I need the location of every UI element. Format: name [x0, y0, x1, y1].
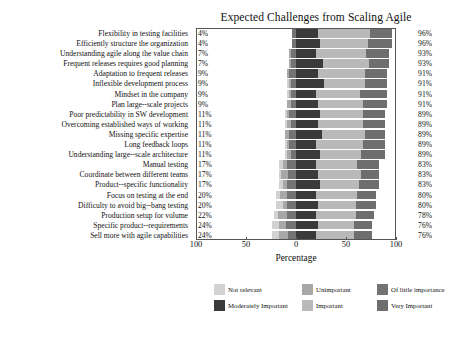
bar-segment-unimportant	[287, 150, 291, 159]
bar-segment-very-important	[363, 120, 385, 129]
bar-segment-not-relevant	[279, 180, 283, 189]
legend-label: Unimportant	[316, 284, 351, 295]
bar-segment-important	[316, 231, 354, 240]
legend-item: Not relevant	[214, 283, 262, 296]
bar-segment-moderately-important	[296, 170, 318, 179]
x-tick-label: 0	[276, 240, 316, 249]
bar-segment-very-important	[361, 150, 385, 159]
left-percentage-labels: 4%4%7%7%9%9%9%9%11%11%11%11%11%17%17%17%…	[196, 28, 238, 240]
bar-segment-unimportant	[281, 170, 288, 179]
x-axis-label: Percentage	[196, 253, 396, 263]
bar-segment-important	[318, 29, 370, 38]
bar-segment-moderately-important	[296, 140, 316, 149]
chart-legend: Not relevantUnimportantOf little importa…	[214, 283, 454, 315]
bar-segment-very-important	[356, 201, 376, 210]
bar-segment-moderately-important	[296, 90, 316, 99]
bar-segment-not-relevant	[285, 110, 287, 119]
bar-segment-very-important	[366, 49, 389, 58]
legend-swatch	[377, 284, 388, 295]
bar-segment-of-little-importance	[287, 160, 296, 169]
bar-segment-unimportant	[283, 180, 287, 189]
chart-title: Expected Challenges from Scaling Agile	[196, 11, 436, 23]
bar-segment-very-important	[363, 110, 385, 119]
bar-segment-important	[320, 39, 368, 48]
bar-segment-important	[318, 170, 361, 179]
bar-segment-of-little-importance	[288, 231, 296, 240]
legend-item: Moderately Important	[214, 299, 288, 312]
bar-segment-of-little-importance	[289, 69, 296, 78]
bar-segment-important	[316, 160, 357, 169]
y-axis-category-labels: Flexibility in testing facilitiesEfficie…	[0, 28, 190, 240]
bar-segment-of-little-importance	[288, 170, 296, 179]
bar-segment-moderately-important	[296, 110, 320, 119]
bar-segment-important	[318, 201, 356, 210]
bar-segment-very-important	[357, 191, 376, 200]
bar-segment-not-relevant	[279, 160, 283, 169]
bar-segment-unimportant	[283, 160, 287, 169]
bar-segment-moderately-important	[296, 79, 324, 88]
x-tick-label: 100	[376, 240, 416, 249]
right-percentage-labels: 96%96%93%93%91%91%91%91%89%89%89%89%89%8…	[398, 28, 458, 240]
bar-segment-moderately-important	[296, 39, 320, 48]
bar-segment-of-little-importance	[287, 191, 296, 200]
bar-segment-important	[316, 191, 357, 200]
bar-segment-important	[320, 150, 361, 159]
bar-segment-very-important	[365, 130, 385, 139]
bar-segment-unimportant	[279, 231, 288, 240]
bar-segment-very-important	[363, 140, 385, 149]
bar-segment-not-relevant	[272, 231, 279, 240]
bar-segment-important	[320, 110, 363, 119]
legend-swatch	[377, 300, 388, 311]
bar-segment-moderately-important	[296, 150, 320, 159]
bar-segment-very-important	[361, 170, 379, 179]
bar-segment-unimportant	[283, 201, 287, 210]
bar-segment-moderately-important	[296, 211, 316, 220]
bar-segment-very-important	[368, 39, 392, 48]
bar-segment-of-little-importance	[289, 130, 296, 139]
x-tick-label: 50	[226, 240, 266, 249]
bar-segment-unimportant	[278, 211, 287, 220]
bar-segment-of-little-importance	[289, 140, 296, 149]
bar-segment-very-important	[354, 231, 372, 240]
bar-segment-moderately-important	[296, 69, 318, 78]
bar-segment-not-relevant	[287, 79, 289, 88]
bar-segment-important	[316, 49, 366, 58]
bar-segment-unimportant	[289, 79, 291, 88]
legend-item: Unimportant	[302, 283, 351, 296]
bar-segment-moderately-important	[296, 29, 318, 38]
bar-segment-not-relevant	[276, 201, 283, 210]
bar-segment-moderately-important	[296, 201, 318, 210]
bar-segment-important	[322, 130, 365, 139]
legend-label: Very Important	[391, 300, 432, 311]
bar-segment-important	[318, 221, 354, 230]
bar-segment-unimportant	[289, 49, 291, 58]
bar-segment-important	[320, 180, 359, 189]
bar-segment-important	[316, 211, 356, 220]
bar-segment-important	[318, 120, 363, 129]
legend-item: Very Important	[377, 299, 432, 312]
bar-segment-very-important	[360, 90, 387, 99]
bar-segment-very-important	[370, 29, 392, 38]
y-axis-label: Sell more with agile capabilities	[0, 230, 190, 241]
bar-segment-moderately-important	[296, 120, 318, 129]
x-tick-label: 50	[326, 240, 366, 249]
legend-swatch	[214, 284, 225, 295]
legend-label: Moderately Important	[228, 300, 288, 311]
bar-segment-unimportant	[287, 110, 289, 119]
bar-segment-of-little-importance	[287, 211, 296, 220]
bar-segment-very-important	[359, 180, 379, 189]
bar-segment-of-little-importance	[286, 221, 296, 230]
bar-segment-moderately-important	[296, 221, 318, 230]
bar-segment-moderately-important	[296, 160, 316, 169]
bar-segment-important	[324, 79, 365, 88]
bar-segment-not-relevant	[272, 221, 279, 230]
bar-segment-not-relevant	[276, 191, 280, 200]
bar-segment-of-little-importance	[287, 201, 296, 210]
bar-segment-of-little-importance	[289, 110, 296, 119]
bar-segment-unimportant	[289, 90, 291, 99]
bar-segment-very-important	[356, 211, 374, 220]
bar-segment-unimportant	[287, 140, 289, 149]
bar-segment-very-important	[365, 69, 387, 78]
bar-segment-unimportant	[279, 221, 286, 230]
bar-segment-not-relevant	[285, 140, 287, 149]
